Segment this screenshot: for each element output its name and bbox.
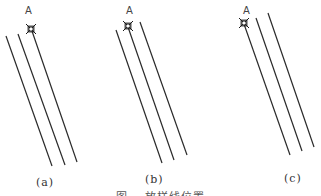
point-marker-icon bbox=[123, 21, 133, 31]
stakeout-line-c-3 bbox=[268, 13, 314, 147]
stakeout-line-c-1 bbox=[244, 24, 290, 155]
stakeout-line-a-3 bbox=[32, 31, 77, 162]
lines-layer bbox=[6, 13, 314, 166]
stakeout-line-a-1 bbox=[6, 36, 52, 166]
markers-layer bbox=[26, 18, 249, 34]
figure-caption: 图 放样线位置 bbox=[0, 188, 321, 196]
point-a-label-panel-b: A bbox=[126, 5, 133, 16]
point-a-label-panel-a: A bbox=[25, 5, 32, 16]
stakeout-line-b-3 bbox=[140, 22, 187, 155]
panel-label-c: (c) bbox=[284, 172, 302, 185]
point-marker-icon bbox=[26, 24, 36, 34]
stakeout-line-b-2 bbox=[128, 27, 174, 160]
point-marker-icon bbox=[239, 18, 249, 28]
stakeout-line-a-2 bbox=[18, 34, 65, 165]
point-a-label-panel-c: A bbox=[243, 5, 250, 16]
panel-label-b: (b) bbox=[145, 173, 164, 186]
diagram-canvas bbox=[0, 0, 321, 196]
stakeout-line-c-2 bbox=[256, 18, 302, 151]
stakeout-line-b-1 bbox=[116, 30, 162, 163]
